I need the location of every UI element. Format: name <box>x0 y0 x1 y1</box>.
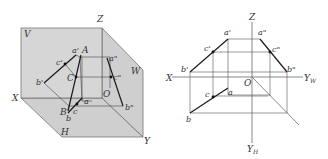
label-b-prime-ortho: b' <box>181 65 188 74</box>
label-point-A: A <box>81 45 89 55</box>
label-b-top: b <box>66 114 71 123</box>
label-a-top: a <box>84 97 89 106</box>
ortho-points <box>212 51 272 99</box>
label-c-top-ortho: c <box>205 90 210 99</box>
45-degree-line <box>252 77 299 125</box>
label-c-double-prime: c" <box>113 73 121 82</box>
label-b-top-ortho: b <box>186 115 191 124</box>
label-c-prime: c' <box>56 58 63 67</box>
label-y-axis: Y <box>144 136 151 146</box>
label-c-prime-ortho: c' <box>204 44 211 53</box>
label-b-double-prime: b" <box>125 103 134 112</box>
label-b-double-prime-ortho: b" <box>287 65 296 74</box>
label-a-double-prime: a" <box>109 54 117 63</box>
label-point-C: C <box>67 73 74 83</box>
label-b-prime: b' <box>36 78 43 87</box>
label-x-axis-ortho: X <box>165 73 173 83</box>
label-a-double-prime-ortho: a" <box>258 28 266 37</box>
right-orthographic-diagram: Z X O YW YH a' a" c' c" b' b" a c b <box>165 12 317 155</box>
label-origin-ortho: O <box>244 78 252 88</box>
left-pictorial-diagram: V Z W X O H Y a' A c' C b' a" c" b" a B … <box>11 14 151 146</box>
label-a-top-ortho: a <box>228 88 233 97</box>
label-a-prime-ortho: a' <box>224 28 231 37</box>
label-origin: O <box>103 89 111 99</box>
label-z-axis: Z <box>96 14 104 24</box>
label-h-plane: H <box>60 127 69 137</box>
label-x-axis: X <box>11 93 19 103</box>
label-w-plane: W <box>131 66 141 76</box>
axes <box>172 22 303 143</box>
projection-diagrams: V Z W X O H Y a' A c' C b' a" c" b" a B … <box>0 0 328 159</box>
side-view-ab <box>260 39 287 72</box>
label-c-top: c <box>73 107 78 116</box>
label-yh-axis: YH <box>247 144 259 155</box>
label-a-prime: a' <box>72 46 79 55</box>
label-yw-axis: YW <box>304 73 317 84</box>
label-z-axis-ortho: Z <box>248 12 256 22</box>
label-c-double-prime-ortho: c" <box>272 45 280 54</box>
